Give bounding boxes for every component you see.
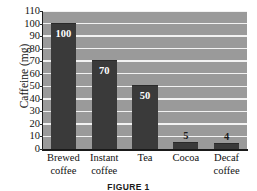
y-axis-tick-labels: 1101009080706050403020100 — [14, 11, 40, 149]
y-axis-tick-label: 90 — [14, 31, 40, 41]
x-axis-category-label-line: Cocoa — [165, 152, 206, 165]
y-axis-tick-label: 40 — [14, 94, 40, 104]
y-axis-tick-label: 100 — [14, 19, 40, 29]
x-axis-category-label-line: Decaf — [206, 152, 247, 165]
y-axis-tick-label: 60 — [14, 69, 40, 79]
bar — [173, 142, 198, 149]
figure-root: Caffeine (mg) 1101009080706050403020100 … — [0, 0, 257, 191]
x-axis-category-label: Decafcoffee — [206, 152, 247, 177]
y-axis-tick-mark — [40, 136, 43, 137]
x-axis-category-label-line: coffee — [43, 165, 84, 178]
y-axis-tick-mark — [40, 99, 43, 100]
y-axis-tick-label: 70 — [14, 56, 40, 66]
x-axis-category-labels: BrewedcoffeeInstantcoffeeTeaCocoaDecafco… — [43, 152, 247, 182]
bar-value-label: 4 — [214, 131, 239, 142]
y-axis-tick-label: 20 — [14, 119, 40, 129]
bar-value-label: 100 — [51, 28, 76, 39]
y-axis-tick-label: 110 — [14, 6, 40, 16]
y-axis-tick-label: 30 — [14, 106, 40, 116]
x-axis-category-label-line: Brewed — [43, 152, 84, 165]
x-axis-category-label-line: Instant — [84, 152, 125, 165]
y-axis-tick-label: 0 — [14, 144, 40, 154]
x-axis-category-label-line: coffee — [84, 165, 125, 178]
y-axis-tick-mark — [40, 124, 43, 125]
y-axis-tick-mark — [40, 49, 43, 50]
figure-caption: FIGURE 1 — [0, 183, 257, 191]
x-axis-line — [42, 149, 248, 151]
x-axis-category-label: Instantcoffee — [84, 152, 125, 177]
gridline — [43, 11, 247, 12]
y-axis-tick-mark — [40, 111, 43, 112]
x-axis-category-label-line: Tea — [125, 152, 166, 165]
plot-area: 100705054 — [43, 11, 247, 149]
x-axis-category-label: Tea — [125, 152, 166, 165]
y-axis-tick-mark — [40, 36, 43, 37]
x-axis-category-label: Brewedcoffee — [43, 152, 84, 177]
y-axis-tick-mark — [40, 11, 43, 12]
y-axis-tick-mark — [40, 24, 43, 25]
x-axis-category-label-line: coffee — [206, 165, 247, 178]
bar — [51, 23, 76, 149]
y-axis-tick-mark — [40, 149, 43, 150]
x-axis-category-label: Cocoa — [165, 152, 206, 165]
y-axis-tick-label: 10 — [14, 131, 40, 141]
y-axis-tick-mark — [40, 86, 43, 87]
y-axis-tick-mark — [40, 61, 43, 62]
bar-value-label: 5 — [173, 130, 198, 141]
bar-value-label: 70 — [92, 65, 117, 76]
y-axis-tick-label: 80 — [14, 44, 40, 54]
y-axis-tick-label: 50 — [14, 81, 40, 91]
y-axis-tick-mark — [40, 74, 43, 75]
bar-value-label: 50 — [132, 90, 157, 101]
